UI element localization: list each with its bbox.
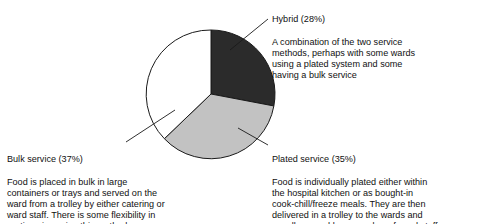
annotation-bulk: Bulk service (37%) Food is placed in bul… <box>7 143 252 224</box>
annotation-hybrid-body: A combination of the two service methods… <box>272 37 472 82</box>
annotation-bulk-heading: Bulk service (37%) <box>7 154 252 165</box>
annotation-hybrid: Hybrid (28%) A combination of the two se… <box>272 3 472 93</box>
pie-chart-figure: Hybrid (28%) A combination of the two se… <box>0 0 477 224</box>
annotation-bulk-body: Food is placed in bulk in large containe… <box>7 177 252 224</box>
pie-slice-hybrid[interactable] <box>211 30 275 106</box>
annotation-hybrid-heading: Hybrid (28%) <box>272 14 472 25</box>
annotation-plated-body: Food is individually plated either withi… <box>272 177 475 224</box>
annotation-plated-heading: Plated service (35%) <box>272 154 475 165</box>
annotation-plated: Plated service (35%) Food is individuall… <box>272 143 475 224</box>
